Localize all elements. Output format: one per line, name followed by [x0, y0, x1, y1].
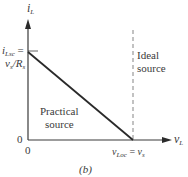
- y-intercept-label-line2: vs/Rs: [5, 58, 25, 69]
- y-axis-label: iL: [27, 3, 34, 14]
- y-axis-arrow-icon: [25, 19, 31, 29]
- practical-source-line: [28, 52, 133, 140]
- ideal-source-label-line1: Ideal: [137, 50, 159, 61]
- figure-caption: (b): [79, 164, 92, 175]
- practical-source-label-line1: Practical: [40, 106, 78, 117]
- x-axis-label: vL: [174, 134, 183, 145]
- x-axis-arrow-icon: [162, 137, 172, 143]
- ideal-source-label-line2: source: [137, 63, 166, 74]
- practical-source-label-line2: source: [45, 119, 74, 130]
- x-origin-label: 0: [25, 145, 31, 156]
- x-intercept-label: vLoc = vs: [112, 146, 145, 157]
- y-intercept-label-line1: iLsc =: [2, 45, 24, 56]
- y-origin-label: 0: [17, 134, 23, 145]
